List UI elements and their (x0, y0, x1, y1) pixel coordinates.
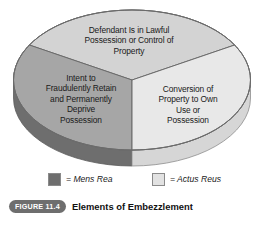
figure-container: Defendant Is in Lawful Possession or Con… (0, 0, 264, 228)
figure-number-badge: FIGURE 11.4 (9, 200, 66, 213)
legend-swatch-actus-reus (152, 173, 165, 186)
legend-item-actus-reus: = Actus Reus (152, 171, 221, 187)
legend-item-mens-rea: = Mens Rea (48, 171, 113, 187)
figure-caption: FIGURE 11.4 Elements of Embezzlement (9, 199, 193, 214)
figure-caption-title: Elements of Embezzlement (72, 201, 193, 212)
pie-chart-3d (0, 0, 264, 170)
legend-label-actus-reus: = Actus Reus (170, 174, 221, 184)
legend-swatch-mens-rea (48, 173, 61, 186)
legend-label-mens-rea: = Mens Rea (66, 174, 113, 184)
chart-legend: = Mens Rea = Actus Reus (0, 171, 264, 191)
